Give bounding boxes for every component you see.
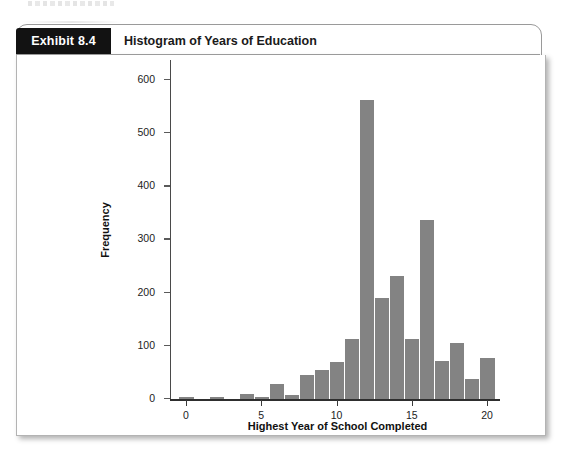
- histogram-bar: [284, 395, 299, 399]
- histogram-bar: [374, 298, 389, 399]
- histogram-chart: 0100200300400500600 05101520 Frequency H…: [17, 55, 547, 436]
- histogram-bar: [314, 370, 329, 399]
- scan-artifact-rule: [22, 21, 122, 23]
- histogram-bar: [479, 358, 494, 399]
- y-axis-tick: 500: [164, 132, 170, 133]
- scan-artifact-top: [28, 1, 114, 6]
- y-axis-tick: 300: [164, 238, 170, 239]
- y-axis-tick-label: 0: [149, 392, 155, 404]
- histogram-bar: [359, 100, 374, 399]
- histogram-bar: [449, 343, 464, 399]
- y-axis-title: Frequency: [99, 202, 111, 258]
- header-divider: [16, 54, 540, 55]
- x-axis-tick: [412, 400, 413, 406]
- x-axis-line: [170, 399, 500, 401]
- histogram-bar: [464, 379, 479, 399]
- y-axis-tick: 100: [164, 345, 170, 346]
- histogram-bar: [269, 384, 284, 399]
- exhibit-header: Exhibit 8.4 Histogram of Years of Educat…: [16, 28, 540, 55]
- y-axis-tick-label: 100: [137, 339, 155, 351]
- exhibit-title: Histogram of Years of Education: [124, 28, 317, 55]
- x-axis-tick: [337, 400, 338, 406]
- y-axis-tick: 400: [164, 185, 170, 186]
- x-axis-title: Highest Year of School Completed: [170, 420, 505, 432]
- histogram-bar: [329, 362, 344, 399]
- histogram-bar: [299, 375, 314, 399]
- histogram-bar: [239, 394, 254, 399]
- histogram-bar: [178, 397, 193, 399]
- y-axis-tick-label: 200: [137, 286, 155, 298]
- y-axis-tick: 600: [164, 79, 170, 80]
- histogram-bar: [389, 276, 404, 399]
- y-axis-tick-label: 600: [137, 73, 155, 85]
- y-axis-tick-label: 300: [137, 232, 155, 244]
- y-axis-tick-label: 500: [137, 126, 155, 138]
- histogram-bar: [344, 339, 359, 399]
- y-axis-tick: 0: [164, 398, 170, 399]
- histogram-bar: [419, 220, 434, 399]
- x-axis-tick: [186, 400, 187, 406]
- histogram-bar: [254, 397, 269, 399]
- x-axis-tick: [487, 400, 488, 406]
- histogram-bar: [209, 397, 224, 399]
- histogram-bar: [404, 339, 419, 399]
- x-axis-tick: [261, 400, 262, 406]
- y-axis-tick-label: 400: [137, 179, 155, 191]
- y-axis-line: [170, 60, 171, 400]
- histogram-bar: [434, 361, 449, 399]
- figure-panel: 0100200300400500600 05101520 Frequency H…: [16, 55, 546, 436]
- plot-area: 0100200300400500600 05101520: [170, 60, 505, 400]
- y-axis-tick: 200: [164, 292, 170, 293]
- exhibit-number-badge: Exhibit 8.4: [16, 28, 111, 55]
